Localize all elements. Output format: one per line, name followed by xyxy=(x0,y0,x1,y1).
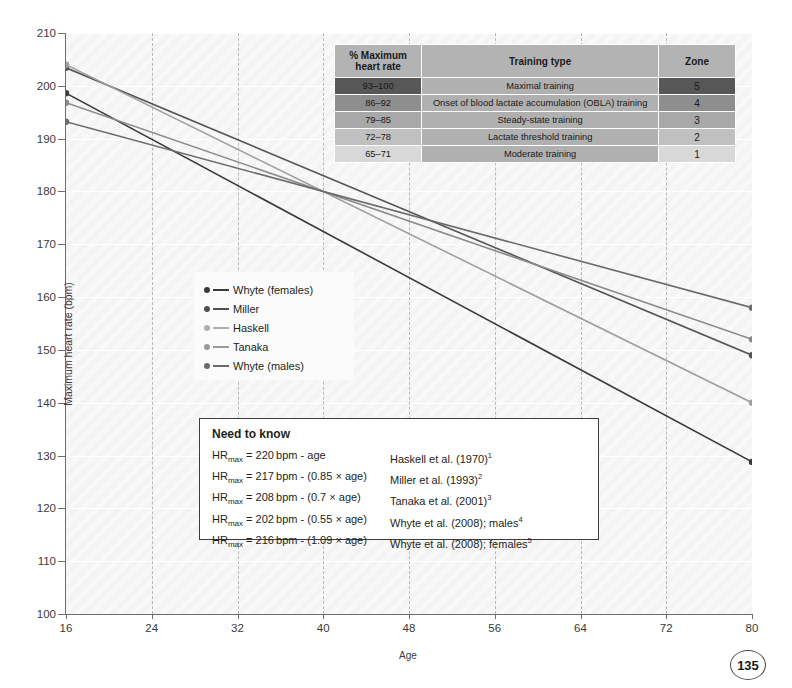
need-to-know-title: Need to know xyxy=(212,427,586,441)
legend-label: Tanaka xyxy=(233,341,268,353)
need-to-know-row: HRmax = 216 bpm - (1.09 × age)Whyte et a… xyxy=(212,532,586,553)
training-zone-table: % Maximum heart rate Training type Zone … xyxy=(334,44,736,163)
need-to-know-row: HRmax = 208 bpm - (0.7 × age)Tanaka et a… xyxy=(212,489,586,510)
legend-item-tanaka: Tanaka xyxy=(204,339,268,355)
formula-text: HRmax = 208 bpm - (0.7 × age) xyxy=(212,489,390,510)
table-row: 93–100Maximal training5 xyxy=(335,78,735,94)
legend-label: Haskell xyxy=(233,322,269,334)
legend-line-swatch xyxy=(213,365,229,367)
need-to-know-row: HRmax = 217 bpm - (0.85 × age)Miller et … xyxy=(212,468,586,489)
cell-training-type-zone-1: Moderate training xyxy=(422,146,658,162)
formula-text: HRmax = 217 bpm - (0.85 × age) xyxy=(212,468,390,489)
y-tick-label-110: 110 xyxy=(38,555,56,567)
datapoint-haskell-80 xyxy=(749,400,752,406)
citation-text: Haskell et al. (1970)1 xyxy=(390,447,586,468)
citation-text: Whyte et al. (2008); males4 xyxy=(390,511,586,532)
cell-training-type-zone-4: Onset of blood lactate accumulation (OBL… xyxy=(422,95,658,111)
tick-y-200 xyxy=(58,86,66,87)
x-tick-label-64: 64 xyxy=(574,622,587,634)
tick-x-32 xyxy=(238,614,239,619)
x-tick-label-56: 56 xyxy=(488,622,501,634)
legend-marker-icon xyxy=(204,287,210,293)
y-tick-label-120: 120 xyxy=(37,502,56,514)
cell-percent-zone-4: 86–92 xyxy=(335,95,421,111)
citation-text: Miller et al. (1993)2 xyxy=(390,468,586,489)
header-training-type: Training type xyxy=(422,45,658,77)
legend-marker-icon xyxy=(204,363,210,369)
need-to-know-row: HRmax = 202 bpm - (0.55 × age)Whyte et a… xyxy=(212,511,586,532)
cell-zone-1: 1 xyxy=(659,146,735,162)
tick-x-72 xyxy=(666,614,667,619)
cell-percent-zone-2: 72–78 xyxy=(335,129,421,145)
tick-y-180 xyxy=(58,191,66,192)
y-tick-label-100: 100 xyxy=(37,608,56,620)
datapoint-tanaka-16 xyxy=(66,100,69,106)
y-tick-label-160: 160 xyxy=(37,291,56,303)
tick-x-24 xyxy=(152,614,153,619)
cell-zone-4: 4 xyxy=(659,95,735,111)
cell-zone-2: 2 xyxy=(659,129,735,145)
tick-x-40 xyxy=(323,614,324,619)
formula-text: HRmax = 220 bpm - age xyxy=(212,447,390,468)
table-row: 86–92Onset of blood lactate accumulation… xyxy=(335,95,735,111)
y-tick-label-170: 170 xyxy=(37,238,56,250)
tick-y-100 xyxy=(58,614,66,615)
cell-zone-5: 5 xyxy=(659,78,735,94)
tick-x-48 xyxy=(409,614,410,619)
tick-y-130 xyxy=(58,456,66,457)
tick-y-110 xyxy=(58,561,66,562)
legend-marker-icon xyxy=(204,306,210,312)
datapoint-miller-80 xyxy=(749,352,752,358)
datapoint-tanaka-80 xyxy=(749,336,752,342)
legend-label: Miller xyxy=(233,303,259,315)
citation-text: Tanaka et al. (2001)3 xyxy=(390,489,586,510)
legend-label: Whyte (males) xyxy=(233,360,304,372)
tick-x-16 xyxy=(66,614,67,619)
cell-percent-zone-5: 93–100 xyxy=(335,78,421,94)
header-zone: Zone xyxy=(659,45,735,77)
tick-y-170 xyxy=(58,244,66,245)
tick-y-210 xyxy=(58,33,66,34)
x-tick-label-24: 24 xyxy=(145,622,158,634)
formula-text: HRmax = 202 bpm - (0.55 × age) xyxy=(212,511,390,532)
y-axis-title: Maximum heart rate (bpm) xyxy=(62,282,74,406)
legend-line-swatch xyxy=(213,308,229,310)
y-tick-label-150: 150 xyxy=(37,344,56,356)
datapoint-whyte-males-16 xyxy=(66,119,69,125)
cell-percent-zone-3: 79–85 xyxy=(335,112,421,128)
x-axis-title: Age xyxy=(399,650,417,661)
chart-legend: Whyte (females)MillerHaskellTanakaWhyte … xyxy=(194,272,354,380)
y-tick-label-210: 210 xyxy=(37,27,56,39)
page-number-badge: 135 xyxy=(730,650,766,680)
x-tick-label-72: 72 xyxy=(660,622,673,634)
header-percent-max-hr: % Maximum heart rate xyxy=(335,45,421,77)
need-to-know-row: HRmax = 220 bpm - ageHaskell et al. (197… xyxy=(212,447,586,468)
cell-training-type-zone-3: Steady-state training xyxy=(422,112,658,128)
legend-marker-icon xyxy=(204,325,210,331)
formula-text: HRmax = 216 bpm - (1.09 × age) xyxy=(212,532,390,553)
datapoint-whyte-males-80 xyxy=(749,304,752,310)
tick-x-64 xyxy=(581,614,582,619)
legend-item-haskell: Haskell xyxy=(204,320,269,336)
x-tick-label-48: 48 xyxy=(403,622,416,634)
legend-label: Whyte (females) xyxy=(233,284,313,296)
y-tick-label-190: 190 xyxy=(37,133,56,145)
y-tick-label-200: 200 xyxy=(37,80,56,92)
x-tick-label-40: 40 xyxy=(317,622,330,634)
tick-y-120 xyxy=(58,508,66,509)
page-root: 100110120130140150160170180190200210 162… xyxy=(0,0,792,688)
table-row: 65–71Moderate training1 xyxy=(335,146,735,162)
x-tick-label-16: 16 xyxy=(60,622,73,634)
cell-zone-3: 3 xyxy=(659,112,735,128)
legend-line-swatch xyxy=(213,346,229,348)
need-to-know-box: Need to know HRmax = 220 bpm - ageHaskel… xyxy=(199,418,599,540)
legend-item-whyte-males: Whyte (males) xyxy=(204,358,304,374)
table-header-row: % Maximum heart rate Training type Zone xyxy=(335,45,735,77)
legend-marker-icon xyxy=(204,344,210,350)
x-tick-label-32: 32 xyxy=(231,622,244,634)
x-tick-label-80: 80 xyxy=(746,622,759,634)
cell-training-type-zone-5: Maximal training xyxy=(422,78,658,94)
legend-line-swatch xyxy=(213,327,229,329)
tick-x-80 xyxy=(752,614,753,619)
legend-line-swatch xyxy=(213,289,229,291)
